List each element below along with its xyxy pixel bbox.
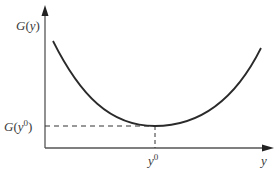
diagram-canvas bbox=[0, 0, 280, 178]
y-axis-label: G(y) bbox=[16, 19, 40, 32]
min-point-label: y0 bbox=[148, 154, 158, 167]
g-curve bbox=[53, 41, 261, 126]
min-value-label: G(y0) bbox=[4, 120, 32, 133]
y-axis-arrow-icon bbox=[42, 5, 49, 16]
x-axis-arrow-icon bbox=[262, 145, 274, 152]
x-axis-label: y bbox=[261, 154, 267, 167]
